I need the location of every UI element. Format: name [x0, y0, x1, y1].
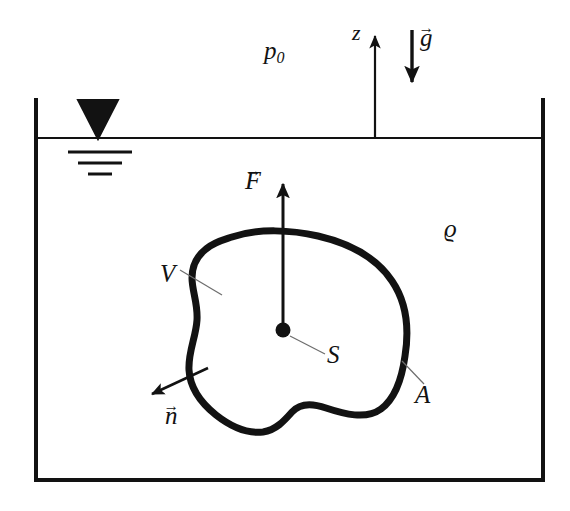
- force-vector-accent-icon: →: [245, 163, 261, 179]
- water-level-triangle-icon: [78, 100, 118, 139]
- surface-area-label: A: [415, 382, 430, 407]
- ambient-pressure-symbol: p: [264, 37, 277, 64]
- figure-canvas: p0 z →g ϱ →F V S A →n: [0, 0, 570, 511]
- ambient-pressure-subscript: 0: [277, 49, 285, 66]
- density-label: ϱ: [444, 216, 457, 241]
- centroid-label: S: [327, 342, 340, 367]
- normal-vector-label: →n: [165, 403, 178, 428]
- buoyant-force-label: →F: [245, 168, 261, 194]
- tank-walls: [36, 100, 543, 480]
- volume-label: V: [160, 261, 175, 286]
- z-axis-label: z: [352, 22, 361, 44]
- outward-normal-vector-arrow: [152, 368, 208, 394]
- gravity-vector-label: →g: [420, 25, 433, 50]
- submerged-body-outline: [189, 231, 407, 432]
- gravity-vector-accent-icon: →: [419, 20, 435, 36]
- leader-line-centroid: [290, 336, 325, 354]
- diagram-svg: [0, 0, 570, 511]
- tank-container: [36, 100, 543, 480]
- normal-vector-accent-icon: →: [164, 398, 180, 414]
- ambient-pressure-label: p0: [264, 38, 285, 66]
- leader-line-volume: [180, 270, 222, 295]
- centroid-dot: [276, 323, 291, 338]
